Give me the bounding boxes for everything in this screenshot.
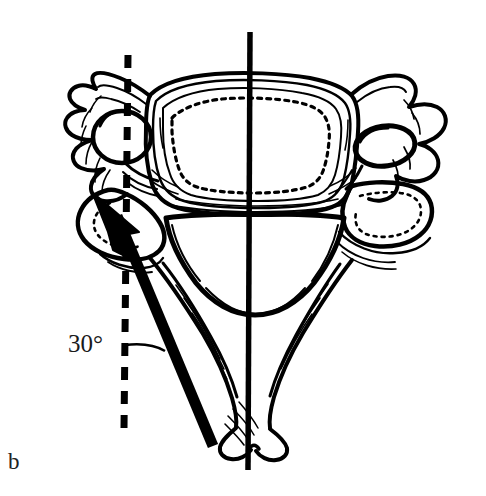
midline-axis-line <box>248 32 250 470</box>
vertebra-illustration <box>0 0 486 496</box>
figure-panel: 30° b <box>0 0 486 496</box>
angle-label: 30° <box>68 331 103 356</box>
panel-label: b <box>8 450 20 473</box>
